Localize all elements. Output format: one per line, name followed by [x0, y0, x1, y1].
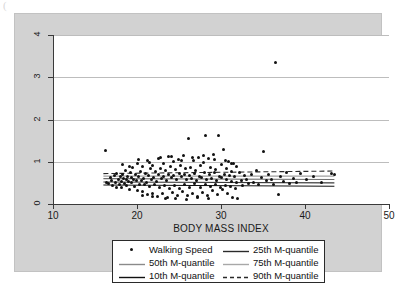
scatter-point: [190, 177, 193, 180]
scatter-point: [138, 183, 141, 186]
scatter-point: [178, 172, 181, 175]
scatter-point: [288, 182, 291, 185]
scatter-point: [145, 181, 148, 184]
legend-marker-dot-icon: [117, 243, 147, 256]
scatter-point: [172, 174, 175, 177]
scatter-point: [299, 172, 302, 175]
scatter-point: [173, 184, 176, 187]
scatter-point: [233, 175, 236, 178]
scatter-point: [121, 163, 124, 166]
scatter-point: [279, 175, 282, 178]
scatter-point: [277, 193, 280, 196]
scatter-point: [210, 177, 213, 180]
scatter-point: [270, 178, 273, 181]
legend-line-solid-icon: [221, 256, 251, 269]
figure-plate: 01234 1020304050 BODY MASS INDEX Walking…: [14, 13, 382, 272]
scatter-point: [199, 186, 202, 189]
scatter-point: [146, 193, 149, 196]
scatter-point: [182, 154, 185, 157]
scatter-point: [203, 171, 206, 174]
scatter-point: [151, 192, 154, 195]
scatter-point: [236, 197, 239, 200]
scatter-point: [118, 183, 121, 186]
scatter-point: [165, 179, 168, 182]
scatter-point: [162, 175, 165, 178]
scatter-point: [193, 182, 196, 185]
line-swatch-icon: [223, 262, 249, 267]
scatter-point: [204, 134, 207, 137]
scatter-point: [225, 167, 228, 170]
scatter-point: [223, 173, 226, 176]
scatter-point: [222, 148, 225, 151]
scatter-point: [220, 163, 223, 166]
legend-line-solid-icon: [221, 243, 251, 256]
x-tick-label-20: 20: [124, 210, 150, 221]
scatter-point: [107, 182, 110, 185]
scatter-point: [172, 160, 175, 163]
scatter-point: [235, 165, 238, 168]
scatter-point: [152, 176, 155, 179]
scatter-point: [149, 167, 152, 170]
scatter-point: [162, 162, 165, 165]
scatter-point: [214, 168, 217, 171]
scatter-point: [121, 173, 124, 176]
scatter-point: [181, 190, 184, 193]
scatter-point: [180, 159, 183, 162]
scatter-point: [179, 164, 182, 167]
scatter-point: [104, 149, 107, 152]
scatter-point: [204, 183, 207, 186]
scatter-point: [159, 156, 162, 159]
x-tick-label-30: 30: [208, 210, 234, 221]
scatter-point: [240, 179, 243, 182]
legend-label: 25th M-quantile: [253, 243, 318, 256]
scatter-point: [161, 192, 164, 195]
scatter-point: [220, 176, 223, 179]
scatter-point: [124, 169, 127, 172]
scatter-point: [141, 165, 144, 168]
scatter-points-layer: [53, 35, 389, 204]
scatter-point: [164, 197, 167, 200]
scatter-point: [208, 173, 211, 176]
scatter-point: [195, 179, 198, 182]
scatter-point: [164, 169, 167, 172]
scatter-point: [175, 178, 178, 181]
line-swatch-icon: [119, 275, 145, 280]
legend-line-solid-icon: [117, 269, 147, 282]
scatter-point: [243, 174, 246, 177]
scan-artifact-glyph: (: [3, 0, 17, 11]
y-tick-label-2: 2: [32, 111, 42, 127]
scatter-point: [131, 166, 134, 169]
scatter-point: [231, 196, 234, 199]
y-tick-label-0: 0: [32, 195, 42, 211]
scatter-point: [157, 173, 160, 176]
scatter-point: [202, 161, 205, 164]
line-swatch-icon: [223, 275, 249, 280]
scatter-point: [137, 175, 140, 178]
x-axis-label: BODY MASS INDEX: [53, 223, 389, 234]
scatter-point: [320, 181, 323, 184]
scatter-point: [212, 153, 215, 156]
scatter-point: [183, 183, 186, 186]
scatter-point: [185, 198, 188, 201]
scatter-point: [295, 181, 298, 184]
scatter-point: [159, 167, 162, 170]
scatter-point: [183, 173, 186, 176]
scatter-point: [230, 180, 233, 183]
scatter-point: [194, 169, 197, 172]
scatter-point: [137, 158, 140, 161]
scatter-point: [209, 166, 212, 169]
scatter-point: [174, 168, 177, 171]
scatter-point: [128, 188, 131, 191]
scatter-point: [221, 188, 224, 191]
legend-label: 50th M-quantile: [149, 256, 214, 269]
chart-legend: Walking Speed25th M-quantile50th M-quant…: [112, 240, 325, 283]
scatter-point: [252, 181, 255, 184]
scatter-point: [216, 193, 219, 196]
scatter-point: [265, 179, 268, 182]
scatter-point: [305, 178, 308, 181]
scatter-point: [110, 179, 113, 182]
scatter-point: [247, 182, 250, 185]
legend-label: 75th M-quantile: [253, 256, 318, 269]
scatter-point: [120, 186, 123, 189]
scatter-point: [267, 173, 270, 176]
